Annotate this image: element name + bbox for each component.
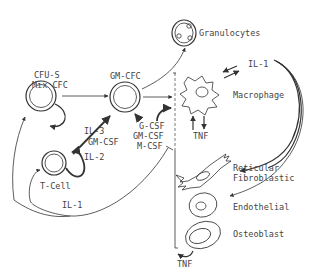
cfu-s-self-renewal-arrow bbox=[50, 104, 65, 127]
granulocyte-cell bbox=[172, 20, 196, 46]
csf-to-gmcfc-arrow bbox=[135, 114, 140, 120]
tnf-macrophage-label: TNF bbox=[193, 131, 208, 141]
granulocytes-label: Granulocytes bbox=[199, 28, 260, 38]
gmcfc-to-granulocytes-arrow bbox=[142, 48, 185, 89]
cytokine-network-diagram: CFU-S Mix CFC GM-CFC Granulocytes G-CSF … bbox=[0, 0, 313, 278]
cfu-s-label: CFU-S bbox=[34, 70, 60, 80]
gm-csf-label: GM-CSF bbox=[133, 131, 164, 141]
gm-cfc-label: GM-CFC bbox=[110, 71, 141, 81]
il-1-to-cfu-arrow bbox=[13, 117, 25, 200]
t-cell-label: T-Cell bbox=[40, 181, 71, 191]
m-csf-label: M-CSF bbox=[137, 141, 163, 151]
osteoblast-cell bbox=[182, 217, 225, 254]
macrophage-cell bbox=[180, 76, 219, 115]
endothelial-cell bbox=[186, 190, 219, 220]
mix-cfc-label: Mix CFC bbox=[32, 80, 68, 90]
il-2-label: IL-2 bbox=[84, 152, 104, 162]
il-1-in-arrow bbox=[223, 66, 237, 72]
il-1-top-label: IL-1 bbox=[248, 59, 268, 69]
tnf-bottom-arrow bbox=[178, 251, 193, 257]
il-1-out-arrow bbox=[224, 71, 239, 78]
gm-cfc-cell bbox=[110, 82, 140, 112]
osteoblast-label: Osteoblast bbox=[233, 229, 284, 239]
tcell-gm-csf-label: GM-CSF bbox=[88, 137, 119, 147]
macrophage-nucleus bbox=[196, 87, 208, 97]
g-csf-label: G-CSF bbox=[139, 121, 165, 131]
tnf-bottom-label: TNF bbox=[177, 259, 192, 269]
csf-curve-arrow bbox=[157, 108, 171, 121]
t-cell bbox=[42, 151, 66, 175]
il-1-to-tcell-arrow bbox=[29, 170, 40, 200]
il-1-arc-2 bbox=[268, 61, 301, 168]
reticular-label: Reticular bbox=[233, 163, 279, 173]
macrophage-label: Macrophage bbox=[233, 90, 284, 100]
il-1-bottom-label: IL-1 bbox=[62, 200, 82, 210]
il-2-autocrine-arrow bbox=[66, 152, 84, 177]
fibroblastic-label: Fibroblastic bbox=[233, 173, 294, 183]
endothelial-label: Endothelial bbox=[233, 202, 289, 212]
